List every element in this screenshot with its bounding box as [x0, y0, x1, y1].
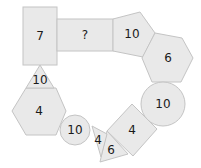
triangle-4-label: 4: [94, 133, 102, 147]
hexagon-6-label: 6: [164, 51, 172, 65]
triangle-10: 10: [26, 65, 54, 88]
circle-small-10: 10: [60, 115, 90, 145]
circle-large-10-label: 10: [155, 97, 170, 111]
hexagon-4: 4: [12, 88, 66, 135]
pentagon-10-label: 10: [124, 27, 139, 41]
rectangle-question-label: ?: [82, 28, 88, 42]
shape-puzzle-diagram: 7 ? 10 6 10 4 6 4 10 4: [0, 0, 201, 168]
triangle-10-label: 10: [32, 73, 47, 87]
square-4-label: 4: [128, 123, 136, 137]
circle-small-10-label: 10: [67, 123, 82, 137]
rectangle-7: 7: [23, 7, 57, 65]
hexagon-4-label: 4: [35, 104, 43, 118]
rectangle-question: ?: [57, 19, 113, 51]
triangle-6-label: 6: [107, 143, 115, 157]
rectangle-7-label: 7: [36, 29, 44, 43]
